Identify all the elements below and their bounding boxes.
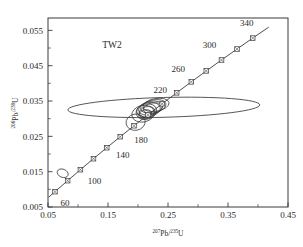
- y-tick-label-0: 0.005: [23, 202, 44, 212]
- sample-label: TW2: [102, 40, 122, 50]
- age-marker-100: [78, 167, 83, 172]
- age-marker-320: [235, 47, 240, 52]
- y-tick-label-2: 0.025: [23, 132, 44, 142]
- age-label-300: 300: [203, 40, 217, 50]
- age-marker-300: [219, 58, 224, 63]
- concordia-plot-svg: 0.050.150.250.350.45 0.0050.0150.0250.03…: [0, 0, 303, 247]
- age-marker-340: [250, 36, 255, 41]
- age-marker-180: [132, 123, 137, 128]
- x-axis-title-u: U: [178, 229, 184, 238]
- age-marker-220: [160, 102, 165, 107]
- age-marker-60: [53, 189, 58, 194]
- age-marker-120: [91, 156, 96, 161]
- age-marker-140: [104, 145, 109, 150]
- age-marker-80: [65, 178, 70, 183]
- age-label-180: 180: [134, 135, 148, 145]
- age-marker-200: [146, 112, 151, 117]
- age-marker-240: [174, 91, 179, 96]
- concordia-diagram-figure: 0.050.150.250.350.45 0.0050.0150.0250.03…: [0, 0, 303, 247]
- age-label-60: 60: [60, 198, 70, 208]
- y-tick-label-5: 0.055: [23, 26, 44, 36]
- y-tick-label-3: 0.035: [23, 96, 44, 106]
- age-label-100: 100: [88, 176, 102, 186]
- age-label-340: 340: [240, 18, 254, 28]
- age-marker-160: [118, 134, 123, 139]
- y-tick-label-1: 0.015: [23, 167, 44, 177]
- y-tick-label-4: 0.045: [23, 61, 44, 71]
- y-axis-title-u: U: [11, 97, 20, 103]
- age-label-140: 140: [116, 150, 130, 160]
- x-tick-label-3: 0.35: [220, 210, 236, 220]
- x-tick-label-2: 0.25: [160, 210, 176, 220]
- age-marker-260: [189, 80, 194, 85]
- age-label-260: 260: [172, 64, 186, 74]
- x-tick-label-4: 0.45: [280, 210, 296, 220]
- age-marker-280: [204, 69, 209, 74]
- x-tick-label-1: 0.15: [100, 210, 116, 220]
- age-label-220: 220: [153, 85, 167, 95]
